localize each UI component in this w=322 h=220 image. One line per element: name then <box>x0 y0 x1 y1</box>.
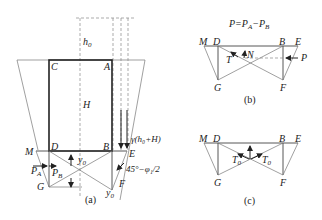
left-slope <box>17 60 38 150</box>
label-h: H <box>82 99 91 110</box>
angle-arrow <box>117 163 124 170</box>
label-f-b: F <box>279 82 287 93</box>
figure: h0 C A H D B M E G F PA PB y0 y0 γ(h₀+H)… <box>0 0 322 220</box>
label-n-b: N <box>246 49 255 60</box>
n-arrow <box>244 51 245 58</box>
t-arrow <box>231 52 238 57</box>
label-angle: 45°−φ₁/2 <box>126 164 160 174</box>
label-y0-bottom: y0 <box>105 187 114 200</box>
t0-right-arrow <box>251 154 262 159</box>
label-t-b: T <box>226 54 233 65</box>
label-b-c: B <box>279 133 285 144</box>
label-e: E <box>128 148 135 159</box>
label-g-c: G <box>214 177 221 188</box>
label-g-b: G <box>214 82 221 93</box>
label-d-c: D <box>212 133 221 144</box>
caption-a: (a) <box>85 194 96 206</box>
label-f: F <box>118 178 126 189</box>
label-c: C <box>51 61 58 72</box>
label-f-c: F <box>279 177 287 188</box>
line-ef-c <box>283 143 298 175</box>
label-m-b: M <box>198 36 208 47</box>
line-mg-b <box>204 46 218 80</box>
label-m-c: M <box>198 133 208 144</box>
label-m: M <box>24 146 34 157</box>
label-p-b: P <box>300 52 307 63</box>
panel-b: P=PA−PB M D B E G F T N P (b) <box>198 18 307 106</box>
label-b-b: B <box>279 36 285 47</box>
caption-b: (b) <box>244 94 256 106</box>
line-ef-b <box>283 46 298 80</box>
label-d-b: D <box>212 36 221 47</box>
panel-a: h0 C A H D B M E G F PA PB y0 y0 γ(h₀+H)… <box>17 18 161 206</box>
line-mg-c <box>204 143 218 175</box>
label-e-b: E <box>294 36 301 47</box>
label-pa: PA <box>30 165 42 178</box>
label-y0: y0 <box>77 154 86 167</box>
label-g: G <box>37 181 44 192</box>
label-pb: PB <box>51 167 63 180</box>
label-t0-left: T0 <box>232 154 242 167</box>
label-e-c: E <box>294 133 301 144</box>
label-h0: h0 <box>83 36 92 49</box>
panel-c: M D B E G F T0 T0 (c) <box>198 133 301 207</box>
caption-c: (c) <box>244 195 255 207</box>
label-a: A <box>103 61 111 72</box>
equation: P=PA−PB <box>228 18 270 31</box>
label-d: D <box>50 141 59 152</box>
label-load: γ(h₀+H) <box>131 134 161 144</box>
box-cabd <box>49 60 112 151</box>
label-b: B <box>103 141 109 152</box>
